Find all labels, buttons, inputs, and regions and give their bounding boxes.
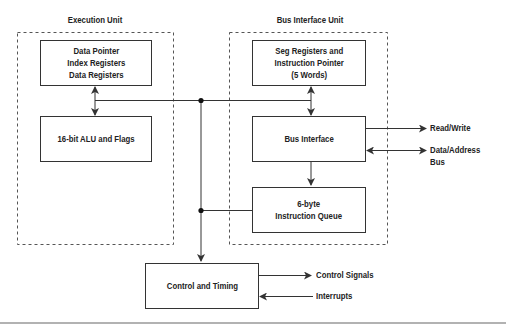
bus-junction-top [198, 98, 203, 103]
alu-label: 16-bit ALU and Flags [57, 133, 134, 145]
bus-interface-block: Bus Interface [252, 116, 366, 162]
control-timing-block: Control and Timing [145, 263, 259, 309]
bus-junction-bottom [198, 208, 203, 213]
registers-label: Data Pointer Index Registers Data Regist… [67, 45, 125, 81]
execution-unit-title: Execution Unit [58, 14, 132, 26]
read-write-label: Read/Write [430, 122, 471, 134]
alu-block: 16-bit ALU and Flags [40, 116, 152, 162]
data-address-bus-label: Data/Address Bus [430, 144, 492, 168]
control-timing-label: Control and Timing [166, 280, 237, 292]
registers-block: Data Pointer Index Registers Data Regist… [40, 40, 152, 86]
seg-registers-block: Seg Registers and Instruction Pointer (5… [252, 40, 366, 86]
bus-interface-unit-title: Bus Interface Unit [261, 14, 359, 26]
control-signals-label: Control Signals [316, 269, 374, 281]
seg-registers-label: Seg Registers and Instruction Pointer (5… [274, 45, 343, 81]
interrupts-label: Interrupts [316, 290, 352, 302]
bus-interface-label: Bus Interface [284, 133, 333, 145]
instruction-queue-block: 6-byte Instruction Queue [252, 187, 366, 233]
instruction-queue-label: 6-byte Instruction Queue [276, 198, 343, 222]
